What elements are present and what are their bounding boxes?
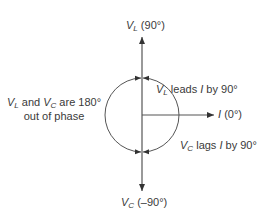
lags-annotation: VC lags I by 90° <box>180 139 257 152</box>
phase-line-2: out of phase <box>4 110 104 123</box>
leads-text: leads <box>168 83 200 95</box>
phase-arc-upper-arrow <box>105 78 141 115</box>
vc-label: VC (–90°) <box>121 196 167 209</box>
lags-text: lags <box>193 139 219 151</box>
i-label: I (0°) <box>218 108 242 121</box>
vl-angle: (90°) <box>141 19 165 31</box>
i-symbol: I <box>218 108 221 120</box>
vc-angle: (–90°) <box>137 196 167 208</box>
phase-line-1: VL and VC are 180° <box>4 96 104 109</box>
leads-end: by 90° <box>203 83 237 95</box>
lag-arc-arrow <box>143 115 179 152</box>
vc-subscript: C <box>128 201 134 210</box>
phase-annotation: VL and VC are 180° out of phase <box>4 96 104 123</box>
phase-vc-symbol: V <box>43 96 50 108</box>
vl-label: VL (90°) <box>126 19 165 32</box>
i-angle: (0°) <box>224 108 242 120</box>
vl-subscript: L <box>133 24 137 33</box>
phase-arc-lower-arrow <box>105 115 141 152</box>
phase-degrees-text: are 180° <box>56 96 101 108</box>
lags-end: by 90° <box>222 139 256 151</box>
phase-and-text: and <box>19 96 43 108</box>
leads-annotation: VL leads I by 90° <box>156 83 238 96</box>
